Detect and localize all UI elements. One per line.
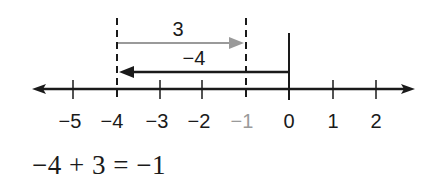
tick-label: 0 [283, 110, 294, 132]
tick-label: −4 [101, 110, 124, 132]
number-line-axis [32, 84, 415, 94]
number-line-diagram: 3 −4 −5 −4 −3 −2 −1 0 1 2 −4 + 3 = −1 [0, 0, 434, 183]
tick-label-highlighted: −1 [231, 110, 254, 132]
arrowhead-left-icon [119, 66, 134, 78]
equation: −4 + 3 = −1 [32, 150, 166, 181]
arrowhead-right-icon [229, 37, 244, 49]
tick-label: −5 [59, 110, 82, 132]
tick-labels: −5 −4 −3 −2 −1 0 1 2 [59, 110, 382, 132]
tick-label: 2 [370, 110, 381, 132]
tick-label: −3 [146, 110, 169, 132]
tick-label: 1 [327, 110, 338, 132]
arrow-label-minus-four: −4 [183, 47, 206, 69]
arrow-label-three: 3 [172, 18, 183, 40]
tick-label: −2 [188, 110, 211, 132]
